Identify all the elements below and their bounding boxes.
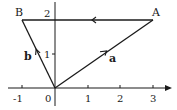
x-tick-label: 1: [85, 93, 91, 104]
x-tick-label: -1: [13, 93, 23, 104]
vector-a-label: a: [109, 52, 116, 65]
x-tick-label: 3: [150, 93, 156, 104]
y-tick-label: 1: [44, 49, 50, 60]
y-tick-label: 2: [44, 8, 50, 19]
vector-b-label: b: [24, 50, 32, 63]
vector-diagram: -1 0 1 2 3 1 2 B A b a: [0, 0, 177, 110]
point-b-label: B: [15, 6, 23, 19]
point-a-label: A: [151, 6, 161, 19]
x-tick-label: 0: [45, 93, 51, 104]
vector-a-line: [55, 20, 153, 88]
x-tick-label: 2: [117, 93, 123, 104]
x-axis-arrow-icon: [165, 85, 172, 91]
